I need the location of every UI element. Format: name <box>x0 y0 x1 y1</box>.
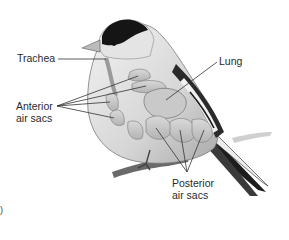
bird-head <box>82 20 154 59</box>
anterior-air-sacs-label: Anterior air sacs <box>16 100 53 124</box>
eye <box>112 42 116 46</box>
trachea-label-text: Trachea <box>17 52 55 64</box>
trachea-label: Trachea <box>17 52 55 64</box>
corner-mark: ) <box>0 205 3 215</box>
posterior-label-line2: air sacs <box>172 189 214 201</box>
lung-label: Lung <box>219 55 242 67</box>
posterior-air-sacs-label: Posterior air sacs <box>172 177 214 201</box>
posterior-label-line1: Posterior <box>172 177 214 189</box>
anterior-label-line2: air sacs <box>16 112 53 124</box>
lung-shape <box>144 88 186 118</box>
anterior-label-line1: Anterior <box>16 100 53 112</box>
beak <box>82 40 100 52</box>
lung-label-text: Lung <box>219 55 242 67</box>
